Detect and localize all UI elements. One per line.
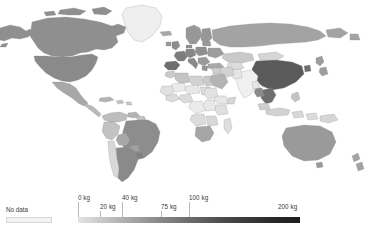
legend-tick-label-200kg: 200 kg — [278, 203, 297, 211]
world-map[interactable] — [0, 0, 376, 192]
choropleth-figure: 0 kg 40 kg 100 kg No data 20 kg 75 kg 20… — [0, 0, 376, 235]
legend-tick-label-20kg: 20 kg — [100, 203, 116, 211]
legend-no-data-label: No data — [6, 206, 28, 214]
legend-tick-label-40kg: 40 kg — [122, 194, 138, 202]
legend: 0 kg 40 kg 100 kg No data 20 kg 75 kg 20… — [0, 192, 376, 235]
legend-tick-label-0kg: 0 kg — [78, 194, 90, 202]
legend-tick-line-0kg — [78, 202, 79, 217]
legend-tick-label-100kg: 100 kg — [189, 194, 208, 202]
legend-tick-label-75kg: 75 kg — [161, 203, 177, 211]
legend-gradient-bar — [78, 217, 300, 223]
legend-gradient-fill — [78, 217, 300, 223]
legend-tick-line-40kg — [122, 202, 123, 217]
legend-tick-line-100kg — [189, 202, 190, 217]
legend-no-data-swatch — [6, 217, 52, 223]
